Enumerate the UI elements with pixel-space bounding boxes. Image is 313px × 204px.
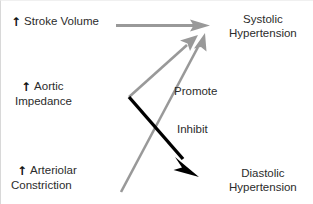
node-systolic-hypertension-line2: Hypertension xyxy=(229,27,297,41)
node-stroke-volume: ↑Stroke Volume xyxy=(11,15,99,30)
node-arteriolar-constriction-line2: Constriction xyxy=(11,179,77,193)
node-aortic-impedance: ↑Aortic Impedance xyxy=(15,80,72,108)
node-systolic-hypertension: Systolic Hypertension xyxy=(229,13,297,40)
edge-label-promote: Promote xyxy=(174,85,217,99)
node-diastolic-hypertension: Diastolic Hypertension xyxy=(229,167,297,194)
node-aortic-impedance-line1: Aortic xyxy=(34,80,63,92)
up-arrow-icon: ↑ xyxy=(11,16,21,30)
edge-arteriolar-constriction-to-systolic xyxy=(121,33,207,192)
node-stroke-volume-label: Stroke Volume xyxy=(24,15,99,27)
node-diastolic-hypertension-line1: Diastolic xyxy=(229,167,297,181)
arrowhead xyxy=(174,157,200,177)
diagram-canvas: ↑Stroke Volume ↑Aortic Impedance ↑Arteri… xyxy=(0,0,313,204)
up-arrow-icon: ↑ xyxy=(21,81,31,95)
node-diastolic-hypertension-line2: Hypertension xyxy=(229,181,297,195)
node-aortic-impedance-line2: Impedance xyxy=(15,95,72,109)
up-arrow-icon: ↑ xyxy=(17,165,27,179)
edge-line xyxy=(129,97,183,159)
edge-label-inhibit: Inhibit xyxy=(177,123,208,137)
node-arteriolar-constriction-line1: Arteriolar xyxy=(30,164,77,176)
node-arteriolar-constriction: ↑Arteriolar Constriction xyxy=(11,164,77,192)
edge-stroke-volume-to-systolic xyxy=(116,20,210,32)
node-systolic-hypertension-line1: Systolic xyxy=(229,13,297,27)
